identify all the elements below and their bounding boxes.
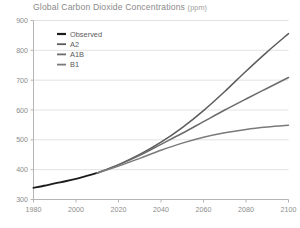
x-axis-tick-label: 2040 (153, 206, 169, 214)
x-axis-tick-label: 2080 (238, 206, 254, 214)
legend-label-a1b: A1B (70, 50, 84, 59)
y-axis-tick-label: 900 (16, 17, 28, 25)
series-line-observed (34, 173, 98, 188)
series-line-a1b (97, 77, 288, 172)
legend-label-observed: Observed (70, 30, 102, 39)
legend-label-b1: B1 (70, 60, 79, 69)
y-axis-tick-label: 500 (16, 136, 28, 144)
x-axis-tick-label: 2020 (111, 206, 127, 214)
x-axis-tick-label: 2000 (68, 206, 84, 214)
series-line-a2 (97, 34, 288, 173)
y-axis-tick-labels: 300400500600700800900 (16, 17, 33, 204)
x-axis-tick-label: 2060 (196, 206, 212, 214)
x-axis-tick-label: 2100 (281, 206, 297, 214)
y-axis-tick-label: 600 (16, 107, 28, 115)
y-axis-tick-label: 800 (16, 47, 28, 55)
legend-label-a2: A2 (70, 40, 79, 49)
x-axis-tick-label: 1980 (26, 206, 42, 214)
chart-legend: ObservedA2A1BB1 (57, 30, 102, 70)
x-axis-tick-labels: 1980200020202040206020802100 (26, 200, 297, 214)
y-axis-tick-label: 700 (16, 77, 28, 85)
series-line-b1 (97, 125, 288, 173)
chart-plot-area: 300400500600700800900 198020002020204020… (0, 0, 300, 228)
y-axis-tick-label: 300 (16, 196, 28, 204)
y-axis-tick-label: 400 (16, 166, 28, 174)
chart-figure: Global Carbon Dioxide Concentrations (pp… (0, 0, 300, 228)
